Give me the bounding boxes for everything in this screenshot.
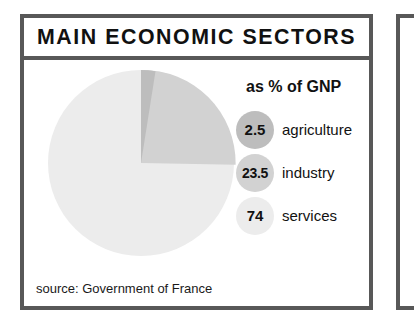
pie-chart-svg [46,68,236,258]
adjacent-panel-sliver [396,14,414,310]
legend-heading: as % of GNP [246,78,372,96]
list-item: 2.5 agriculture [236,108,372,151]
page-title: MAIN ECONOMIC SECTORS [37,24,356,50]
legend-bubble-services: 74 [236,197,274,235]
pie-chart [46,68,236,258]
legend-label-industry: industry [282,164,335,181]
panel-title-bar: MAIN ECONOMIC SECTORS [24,18,369,60]
legend-bubble-agriculture: 2.5 [236,111,274,149]
legend-label-agriculture: agriculture [282,121,352,138]
legend-bubble-industry: 23.5 [236,154,274,192]
source-note: source: Government of France [36,281,212,296]
list-item: 74 services [236,194,372,237]
legend-value-agriculture: 2.5 [245,122,266,137]
legend-label-services: services [282,207,337,224]
list-item: 23.5 industry [236,151,372,194]
main-panel: MAIN ECONOMIC SECTORS as % of GNP 2.5 ag… [20,14,373,310]
panel-body: as % of GNP 2.5 agriculture 23.5 industr… [24,60,369,306]
legend-value-services: 74 [247,208,264,223]
legend-value-industry: 23.5 [242,166,268,180]
legend: as % of GNP 2.5 agriculture 23.5 industr… [236,78,372,237]
pie-slice-industry [141,70,236,165]
